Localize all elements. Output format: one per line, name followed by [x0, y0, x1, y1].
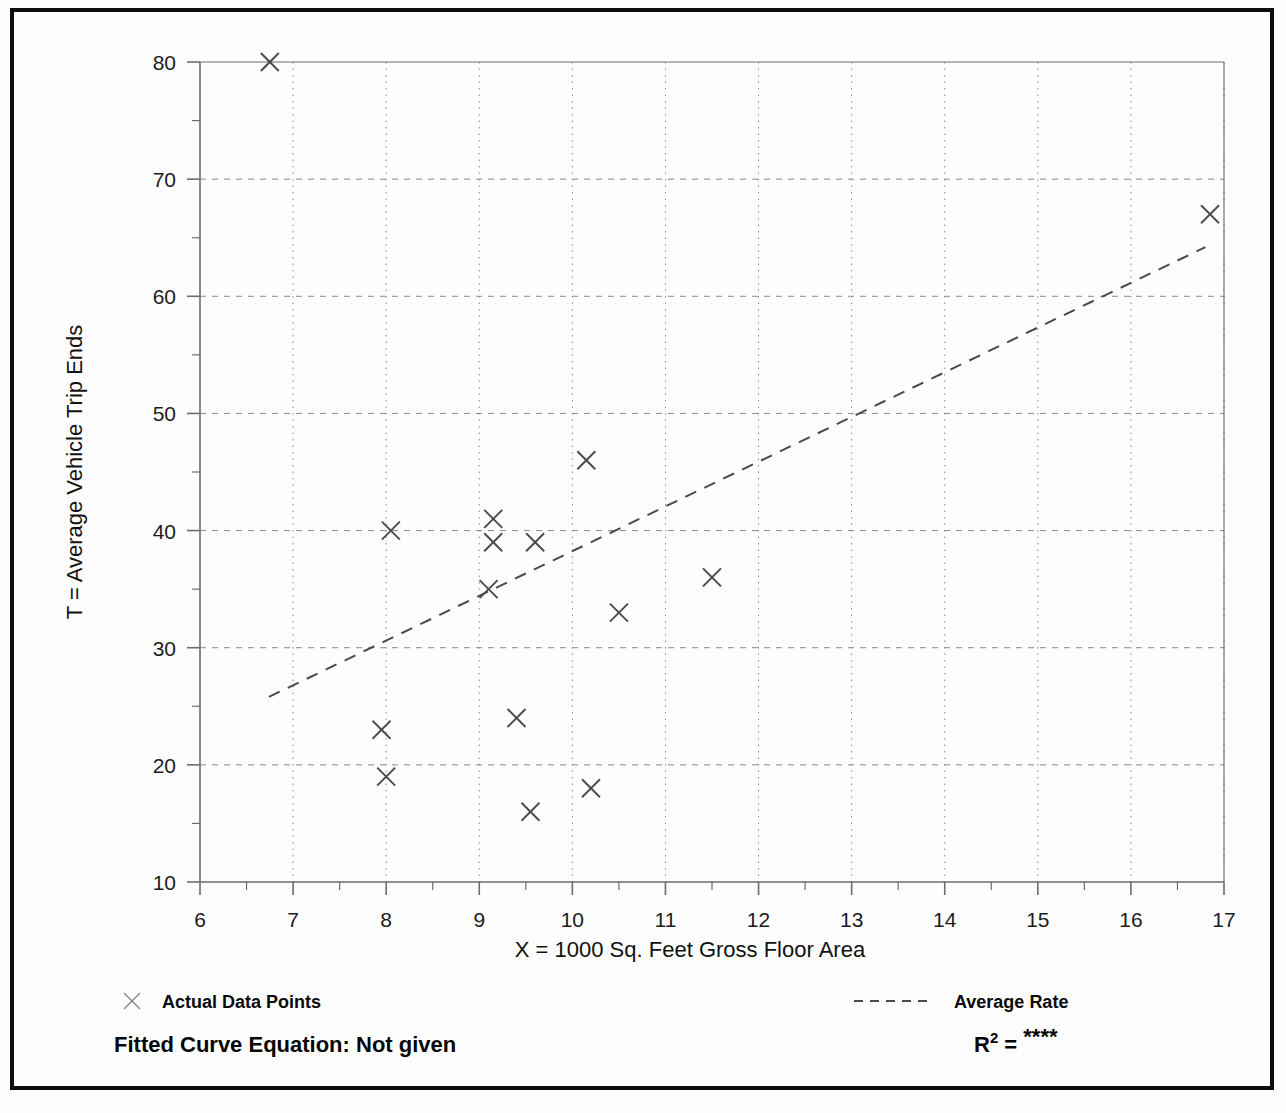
y-axis-title: T = Average Vehicle Trip Ends: [62, 325, 87, 620]
y-axis-tick-label: 30: [153, 637, 176, 660]
x-axis-tick-label: 17: [1212, 908, 1235, 931]
average-rate-trendline: [269, 247, 1205, 697]
r-squared-text: R2 = ****: [974, 1024, 1058, 1057]
x-axis-tick-label: 8: [380, 908, 392, 931]
chart-page: 102030405060708067891011121314151617 X =…: [0, 0, 1286, 1113]
legend-label-actual-data-points: Actual Data Points: [162, 992, 321, 1012]
y-axis-tick-label: 60: [153, 285, 176, 308]
x-axis-tick-label: 7: [287, 908, 299, 931]
x-marker-icon: [124, 993, 140, 1009]
data-point-x-marker-icon: [484, 533, 502, 551]
r2-exponent: 2: [990, 1029, 998, 1046]
data-point-x-marker-icon: [1201, 205, 1219, 223]
data-point-x-marker-icon: [610, 604, 628, 622]
grid-lines: [200, 62, 1224, 882]
y-axis-tick-label: 70: [153, 168, 176, 191]
legend-label-average-rate: Average Rate: [954, 992, 1068, 1012]
data-point-markers: [261, 53, 1219, 821]
data-point-x-marker-icon: [582, 779, 600, 797]
data-point-x-marker-icon: [377, 768, 395, 786]
fitted-curve-equation-text: Fitted Curve Equation: Not given: [114, 1032, 456, 1057]
x-axis-tick-label: 11: [655, 908, 677, 931]
data-point-x-marker-icon: [577, 451, 595, 469]
y-axis-tick-label: 40: [153, 520, 176, 543]
data-point-x-marker-icon: [480, 580, 498, 598]
tick-labels: 102030405060708067891011121314151617: [153, 51, 1236, 931]
x-axis-tick-label: 12: [747, 908, 770, 931]
x-axis-tick-label: 10: [561, 908, 584, 931]
legend-entry-average-rate: Average Rate: [854, 992, 1068, 1012]
scatter-chart: 102030405060708067891011121314151617 X =…: [14, 12, 1270, 1086]
r2-value: ****: [1023, 1024, 1058, 1049]
x-axis-title: X = 1000 Sq. Feet Gross Floor Area: [515, 937, 866, 962]
svg-text:R2 = ****: R2 = ****: [974, 1024, 1058, 1057]
axes: [187, 62, 1224, 895]
y-axis-tick-label: 10: [153, 871, 176, 894]
data-point-x-marker-icon: [526, 533, 544, 551]
y-axis-tick-label: 50: [153, 402, 176, 425]
data-point-x-marker-icon: [373, 721, 391, 739]
x-axis-tick-label: 9: [473, 908, 485, 931]
x-axis-tick-label: 15: [1026, 908, 1049, 931]
trendline-average-rate: [269, 247, 1205, 697]
y-axis-tick-label: 20: [153, 754, 176, 777]
data-point-x-marker-icon: [484, 510, 502, 528]
r2-base: R: [974, 1032, 990, 1057]
y-axis-tick-label: 80: [153, 51, 176, 74]
chart-frame-border: 102030405060708067891011121314151617 X =…: [10, 8, 1274, 1090]
x-axis-tick-label: 14: [933, 908, 957, 931]
legend-entry-actual-data-points: Actual Data Points: [124, 992, 321, 1012]
x-axis-tick-label: 13: [840, 908, 863, 931]
data-point-x-marker-icon: [703, 568, 721, 586]
r2-equals: =: [998, 1032, 1023, 1057]
x-axis-tick-label: 16: [1119, 908, 1142, 931]
x-axis-tick-label: 6: [194, 908, 206, 931]
data-point-x-marker-icon: [508, 709, 526, 727]
data-point-x-marker-icon: [521, 803, 539, 821]
